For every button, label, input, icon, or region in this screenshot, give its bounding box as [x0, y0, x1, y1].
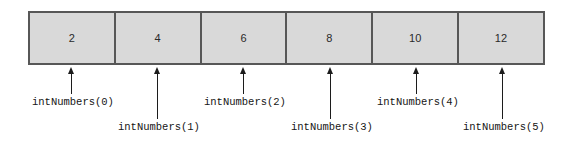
array-index-label: intNumbers(1): [118, 122, 200, 133]
array-cell: 4: [116, 13, 202, 63]
array-index-label: intNumbers(3): [291, 122, 373, 133]
pointer-shaft: [330, 73, 331, 119]
array-cell: 8: [287, 13, 373, 63]
array-index-label: intNumbers(4): [377, 97, 459, 108]
array-cell-value: 8: [326, 33, 332, 44]
array-diagram: 2 4 6 8 10 12 intNumbers(0) intNumbers(1…: [0, 0, 574, 148]
array-cell-value: 10: [409, 33, 422, 44]
array-index-label: intNumbers(2): [204, 97, 286, 108]
pointer-shaft: [157, 73, 158, 119]
array-index-label: intNumbers(5): [463, 122, 545, 133]
array-cell-value: 4: [155, 33, 161, 44]
array-cell: 10: [373, 13, 459, 63]
pointer-shaft: [243, 73, 244, 94]
array-index-label: intNumbers(0): [32, 97, 114, 108]
array-box: 2 4 6 8 10 12: [28, 11, 545, 65]
array-cell-value: 12: [495, 33, 508, 44]
pointer-shaft: [416, 73, 417, 94]
pointer-shaft: [71, 73, 72, 94]
array-cell: 6: [202, 13, 288, 63]
array-cell: 2: [30, 13, 116, 63]
pointer-shaft: [502, 73, 503, 119]
array-cell: 12: [459, 13, 543, 63]
array-cell-value: 6: [240, 33, 246, 44]
array-cell-value: 2: [69, 33, 75, 44]
